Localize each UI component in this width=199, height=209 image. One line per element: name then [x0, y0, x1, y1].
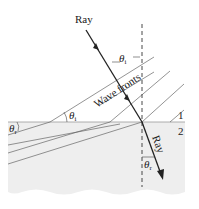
theta-i-left-label: θi — [69, 109, 76, 123]
incident-ray-label: Ray — [75, 13, 93, 25]
medium-1-label: 1 — [178, 109, 184, 121]
theta-i-left-arc — [64, 112, 67, 122]
wave-fronts-label: Wave fronts — [92, 71, 143, 110]
medium-2-region — [8, 122, 185, 195]
refraction-diagram: Ray θi Wave fronts θi θr 1 2 Ray θr — [0, 0, 199, 209]
theta-i-top-label: θi — [119, 52, 126, 66]
medium-2-label: 2 — [178, 125, 184, 137]
